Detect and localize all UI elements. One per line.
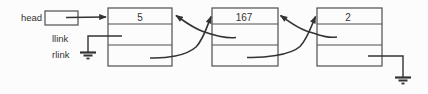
node-value: 5 [137,12,143,23]
rlink-null-pointer [368,56,411,84]
doubly-linked-list-diagram: head llink rlink 5 167 2 [0,0,428,94]
head-pointer: head [21,11,106,25]
head-label: head [21,12,42,23]
node-value: 2 [345,12,351,23]
diagram-svg: head llink rlink 5 167 2 [0,0,428,94]
llink-label: llink [52,33,69,44]
rlink-label: rlink [52,49,70,60]
field-labels: llink rlink [52,33,70,60]
ground-icon [395,78,411,84]
ground-icon [80,53,96,59]
head-arrow [66,17,106,18]
llink-null-wire [88,36,122,52]
node-value: 167 [236,12,253,23]
llink-null-pointer [80,36,122,59]
llink-arrow-node2-to-node1 [176,16,236,38]
rlink-arrow-node1-to-node2 [150,17,211,59]
rlink-arrow-node2-to-node3 [247,17,316,58]
